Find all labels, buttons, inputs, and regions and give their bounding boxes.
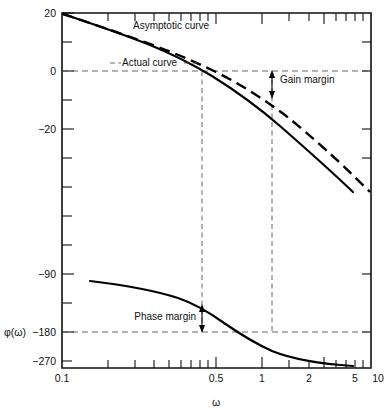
actual-curve-path [63, 14, 353, 192]
gain-margin-arrow-down [269, 91, 275, 99]
asymptotic-curve-annotation: Asymptotic curve [133, 20, 210, 31]
y-tick-labels: 20 0 −20 −90 −180 −270 [32, 7, 56, 367]
x-tick-label-5: 5 [352, 372, 358, 384]
x-tick-label-0p5: 0.5 [209, 372, 224, 384]
bode-plot-canvas: Asymptotic curve Actual curve Gain margi… [0, 0, 391, 415]
y-axis-ticks [62, 13, 74, 361]
phase-curve-path [90, 281, 353, 366]
y-axis-ticks-right [362, 42, 371, 332]
x-tick-label-2: 2 [306, 372, 312, 384]
gain-margin-label: Gain margin [280, 74, 334, 85]
asymptotic-curve-label: Asymptotic curve [133, 20, 210, 31]
x-axis-title: ω [212, 396, 220, 408]
x-tick-label-1: 1 [259, 372, 265, 384]
y-tick-label-minus20: −20 [38, 123, 56, 135]
x-tick-label-0p1: 0.1 [55, 372, 70, 384]
y-tick-label-minus270: −270 [32, 355, 56, 367]
axis-titles: φ(ω) ω [4, 326, 220, 408]
x-tick-label-10: 10 [372, 372, 384, 384]
bode-plot-figure: Asymptotic curve Actual curve Gain margi… [0, 0, 391, 415]
actual-curve-label: Actual curve [122, 57, 177, 68]
y-tick-label-minus180: −180 [32, 326, 56, 338]
gain-margin-annotation: Gain margin [269, 70, 334, 99]
phase-margin-label: Phase margin [134, 311, 196, 322]
plot-frame [62, 13, 371, 368]
y-axis-title: φ(ω) [4, 326, 26, 338]
y-tick-label-20: 20 [44, 7, 56, 19]
y-tick-label-0: 0 [50, 65, 56, 77]
phase-margin-annotation: Phase margin [134, 304, 205, 333]
y-tick-label-minus90: −90 [38, 268, 56, 280]
x-tick-labels: 0.1 0.5 1 2 5 10 [55, 372, 384, 384]
